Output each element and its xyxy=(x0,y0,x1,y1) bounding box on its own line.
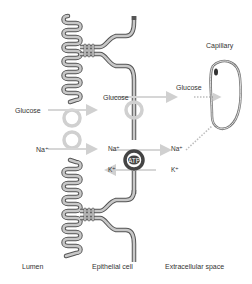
sodium-to-capillary-arrow xyxy=(186,126,212,150)
atp-label: ATP xyxy=(128,157,140,164)
sglt-cotransporter xyxy=(64,110,80,148)
pump-na-out-label: Na⁺ xyxy=(171,146,183,153)
apical-sodium-label: Na⁺ xyxy=(36,146,49,153)
pump-k-in-label: K⁺ xyxy=(108,167,116,174)
pump-k-out-label: K⁺ xyxy=(171,167,179,174)
capillary xyxy=(210,61,240,129)
apical-microvilli-bottom xyxy=(64,160,81,256)
pump-na-in-label: Na⁺ xyxy=(108,146,120,153)
tight-junction-top xyxy=(80,16,134,100)
basolateral-glucose-left-label: Glucose xyxy=(103,94,129,101)
lumen-label: Lumen xyxy=(22,263,43,270)
epithelial-cell-label: Epithelial cell xyxy=(92,263,133,270)
extracellular-space-label: Extracellular space xyxy=(165,263,224,270)
apical-microvilli-top xyxy=(64,16,81,102)
tight-junction-bottom xyxy=(80,190,134,262)
capillary-label: Capillary xyxy=(206,42,233,49)
apical-glucose-label: Glucose xyxy=(15,107,41,114)
basolateral-glucose-right-label: Glucose xyxy=(176,84,202,91)
